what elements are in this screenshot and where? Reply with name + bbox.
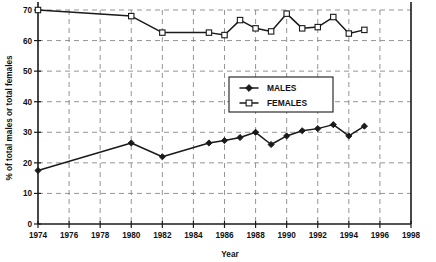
females-marker (253, 26, 258, 31)
females-marker (160, 30, 165, 35)
females-marker (268, 29, 273, 34)
x-tick-label: 1980 (122, 231, 141, 240)
chart-canvas: 1974197619781980198219841986198819901992… (0, 0, 436, 262)
x-tick-label: 1982 (153, 231, 172, 240)
females-marker (129, 13, 134, 18)
y-axis-title: % of total males or total females (5, 55, 14, 181)
males-marker (128, 140, 134, 146)
y-tick-label: 70 (23, 6, 33, 15)
x-tick-label: 1974 (29, 231, 48, 240)
females-marker (237, 17, 242, 22)
grid-lines (38, 10, 411, 224)
x-tick-label: 1988 (246, 231, 265, 240)
x-tick-label: 1990 (278, 231, 297, 240)
x-tick-label: 1992 (309, 231, 328, 240)
females-marker (284, 11, 289, 16)
males-marker (315, 126, 321, 132)
males-marker (206, 140, 212, 146)
x-tick-label: 1996 (371, 231, 390, 240)
females-marker (300, 26, 305, 31)
legend-item-females-label: FEMALES (267, 98, 307, 108)
males-marker (221, 137, 227, 143)
x-axis-title: Year (221, 250, 239, 259)
tick-marks (34, 10, 411, 228)
y-tick-label: 50 (23, 67, 33, 76)
females-marker (315, 24, 320, 29)
males-marker (299, 128, 305, 134)
males-marker (159, 154, 165, 160)
females-line (38, 10, 364, 35)
males-marker (237, 134, 243, 140)
y-tick-label: 30 (23, 128, 33, 137)
males-marker (284, 133, 290, 139)
y-tick-label: 40 (23, 98, 33, 107)
line-chart: 1974197619781980198219841986198819901992… (0, 0, 436, 262)
y-tick-label: 0 (27, 220, 32, 229)
x-tick-label: 1978 (91, 231, 110, 240)
y-tick-label: 60 (23, 37, 33, 46)
x-tick-label: 1976 (60, 231, 79, 240)
chart-legend: MALESFEMALES (229, 77, 333, 112)
females-marker (35, 7, 40, 12)
x-axis-tick-labels: 1974197619781980198219841986198819901992… (29, 231, 421, 240)
legend-item-males-label: MALES (267, 83, 297, 93)
males-marker (35, 167, 41, 173)
y-tick-label: 20 (23, 159, 33, 168)
females-marker (346, 31, 351, 36)
x-tick-label: 1998 (402, 231, 421, 240)
females-marker (331, 14, 336, 19)
x-tick-label: 1984 (184, 231, 203, 240)
legend-item-females-swatch-marker (246, 100, 252, 106)
y-tick-label: 10 (23, 189, 33, 198)
females-marker (362, 27, 367, 32)
females-marker (206, 30, 211, 35)
x-tick-label: 1986 (215, 231, 234, 240)
x-tick-label: 1994 (340, 231, 359, 240)
females-marker (222, 32, 227, 37)
y-axis-tick-labels: 010203040506070 (23, 6, 33, 229)
males-line (38, 125, 364, 171)
